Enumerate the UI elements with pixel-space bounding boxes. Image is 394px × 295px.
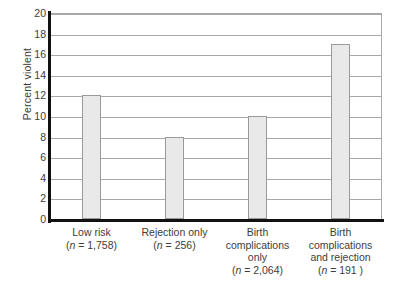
y-axis-tick-0: 0 — [26, 214, 46, 224]
y-axis-tick-14: 14 — [26, 70, 46, 80]
y-axis-tick-10: 10 — [26, 111, 46, 121]
bar-series — [50, 14, 381, 219]
y-axis-tick-labels: 20181614121086420 — [26, 13, 46, 219]
bar-chart: Percent violent 20181614121086420 Low ri… — [0, 0, 394, 295]
bar-4 — [331, 44, 350, 219]
sample-size-symbol: n — [157, 239, 163, 251]
y-axis-spine — [48, 11, 51, 223]
category-label-line: complications — [289, 239, 393, 252]
y-axis-tick-4: 4 — [26, 173, 46, 183]
sample-size-symbol: n — [235, 264, 241, 276]
category-label-line: Birth — [289, 226, 393, 239]
category-label-4: Birthcomplicationsand rejection(n = 191 … — [289, 226, 393, 276]
sample-size-symbol: n — [321, 264, 327, 276]
y-axis-tick-16: 16 — [26, 49, 46, 59]
y-axis-tick-12: 12 — [26, 90, 46, 100]
y-axis-tick-20: 20 — [26, 8, 46, 18]
y-axis-tick-2: 2 — [26, 193, 46, 203]
sample-size-label: (n = 191 ) — [289, 264, 393, 277]
x-axis-category-labels: Low risk(n = 1,758)Rejection only(n = 25… — [50, 226, 382, 294]
category-label-line: and rejection — [289, 251, 393, 264]
y-axis-tick-8: 8 — [26, 132, 46, 142]
bar-3 — [248, 116, 267, 219]
y-axis-tick-6: 6 — [26, 152, 46, 162]
sample-size-symbol: n — [69, 239, 75, 251]
bar-2 — [165, 137, 184, 219]
y-axis-tick-18: 18 — [26, 29, 46, 39]
bar-1 — [82, 95, 101, 219]
plot-area — [50, 13, 382, 219]
x-axis-spine — [48, 219, 384, 222]
